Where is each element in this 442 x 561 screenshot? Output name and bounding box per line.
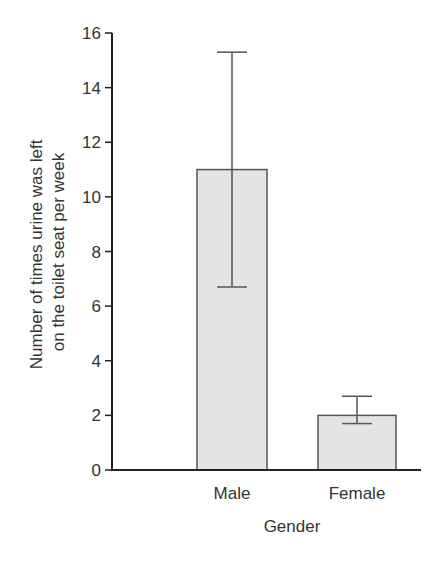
y-tick-label: 12 (82, 133, 101, 152)
bar-chart: 0246810121416 MaleFemale Gender Number o… (0, 0, 442, 561)
x-axis-title: Gender (264, 517, 321, 536)
y-tick-label: 14 (82, 79, 101, 98)
y-axis-title-line-1: Number of times urine was left (27, 139, 46, 369)
x-axis-category-labels: MaleFemale (214, 484, 386, 503)
y-tick-label: 6 (92, 297, 101, 316)
y-tick-label: 4 (92, 352, 101, 371)
y-axis-title-line-2: on the toilet seat per week (49, 152, 68, 351)
y-tick-label: 0 (92, 461, 101, 480)
y-tick-label: 16 (82, 24, 101, 43)
y-tick-label: 2 (92, 406, 101, 425)
y-axis-ticks: 0246810121416 (82, 24, 112, 480)
y-tick-label: 8 (92, 243, 101, 262)
y-axis-title: Number of times urine was left on the to… (27, 135, 68, 369)
bars (197, 170, 396, 470)
y-tick-label: 10 (82, 188, 101, 207)
x-category-label: Male (214, 484, 251, 503)
x-category-label: Female (329, 484, 386, 503)
